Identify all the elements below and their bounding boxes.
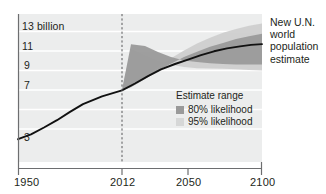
- legend-title: Estimate range: [176, 90, 253, 103]
- annotation-line-3: population: [270, 40, 326, 52]
- x-tick-label-2012: 2012: [110, 176, 135, 188]
- legend-label-95: 95% likelihood: [188, 116, 253, 129]
- legend-swatch-80-icon: [176, 106, 184, 114]
- chart-legend: Estimate range 80% likelihood 95% likeli…: [176, 90, 253, 129]
- legend-swatch-95-icon: [176, 118, 184, 126]
- y-tick-label-3: 3: [24, 132, 30, 143]
- y-tick-label-11: 11: [22, 41, 33, 52]
- legend-item-80: 80% likelihood: [176, 104, 253, 117]
- legend-label-80: 80% likelihood: [188, 104, 253, 117]
- x-tick-label-2050: 2050: [176, 176, 201, 188]
- annotation-line-1: New U.N.: [270, 16, 326, 28]
- annotation-line-2: world: [270, 28, 326, 40]
- y-tick-label-9: 9: [24, 60, 30, 71]
- y-tick-label-7: 7: [24, 80, 30, 91]
- x-tick-label-2100: 2100: [250, 176, 275, 188]
- population-estimate-chart: 13 billion 11 9 7 3 1950 2012 2050 2100 …: [0, 0, 326, 194]
- annotation-line-4: estimate: [270, 53, 326, 65]
- legend-item-95: 95% likelihood: [176, 116, 253, 129]
- series-annotation: New U.N. world population estimate: [270, 16, 326, 65]
- x-tick-label-1950: 1950: [14, 176, 39, 188]
- y-tick-label-13: 13 billion: [22, 21, 64, 32]
